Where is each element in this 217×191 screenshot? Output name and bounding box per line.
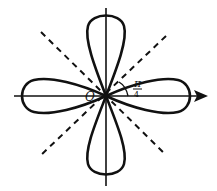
angle-label-numerator: π bbox=[133, 77, 142, 90]
rose-curve-diagram: O π 4 bbox=[0, 0, 217, 191]
origin-label: O bbox=[85, 90, 95, 104]
origin-point bbox=[103, 93, 109, 99]
angle-label-denominator: 4 bbox=[134, 90, 139, 99]
